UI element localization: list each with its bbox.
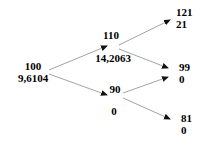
node-down-price-label: 90 bbox=[110, 83, 121, 95]
node-up-down: 99 0 bbox=[179, 61, 190, 85]
node-root: 100 9,6104 bbox=[18, 60, 48, 84]
node-up-down-value: 0 bbox=[179, 73, 190, 85]
binomial-tree-figure: 100 9,6104 110 14,2063 90 0 121 21 99 0 … bbox=[0, 0, 206, 147]
node-up-up-value: 21 bbox=[176, 18, 193, 30]
edge-root-down bbox=[49, 74, 107, 95]
node-up-value-label: 14,2063 bbox=[95, 52, 131, 64]
node-down-value-label: 0 bbox=[111, 105, 117, 117]
edge-down-downdown bbox=[123, 98, 170, 119]
node-down-price: 90 bbox=[110, 83, 121, 95]
node-root-value: 9,6104 bbox=[18, 72, 48, 84]
node-up-up: 121 21 bbox=[176, 6, 193, 30]
node-up-price-label: 110 bbox=[103, 29, 119, 41]
node-up-down-price: 99 bbox=[179, 61, 190, 73]
edge-up-upup bbox=[119, 20, 170, 45]
node-root-price: 100 bbox=[18, 60, 48, 72]
node-up-value: 14,2063 bbox=[95, 52, 131, 64]
node-up-up-price: 121 bbox=[176, 6, 193, 18]
node-down-down-price: 81 bbox=[181, 112, 192, 124]
edge-down-updown bbox=[123, 77, 168, 93]
node-down-down-value: 0 bbox=[181, 124, 192, 136]
node-down-down: 81 0 bbox=[181, 112, 192, 136]
node-up-price: 110 bbox=[103, 29, 119, 41]
node-down-value: 0 bbox=[111, 105, 117, 117]
